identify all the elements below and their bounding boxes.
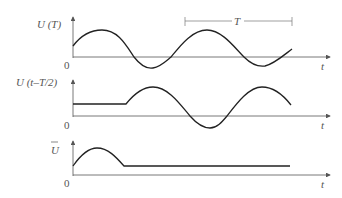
- origin-label: 0: [64, 177, 70, 189]
- y-label: U (t–T/2): [16, 76, 58, 89]
- panel-bottom: U 0 t: [51, 141, 330, 190]
- panel-middle: U (t–T/2) 0 t: [16, 76, 330, 131]
- x-label: t: [321, 60, 325, 72]
- panel-top: T U (T) 0 t: [37, 15, 330, 72]
- y-label: U (T): [37, 18, 61, 31]
- x-label: t: [321, 178, 325, 190]
- signal-curve: [73, 30, 292, 68]
- x-label: t: [321, 119, 325, 131]
- average-signal-curve: [73, 148, 290, 166]
- y-label: U: [51, 144, 60, 156]
- period-label: T: [234, 15, 241, 27]
- origin-label: 0: [64, 59, 70, 71]
- origin-label: 0: [64, 119, 70, 131]
- signal-diagram: T U (T) 0 t U (t–T/2) 0 t U 0 t: [0, 0, 342, 198]
- shifted-signal-curve: [73, 87, 291, 128]
